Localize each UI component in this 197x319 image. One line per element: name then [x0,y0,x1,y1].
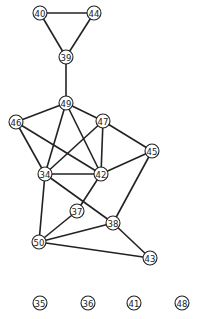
node-45: 45 [145,144,159,158]
node-39: 39 [59,50,73,64]
edge-45-42 [101,151,152,174]
node-label: 50 [34,238,45,248]
node-40: 40 [33,6,47,20]
edge-49-46 [16,103,66,122]
node-36: 36 [81,296,95,310]
node-label: 42 [96,170,107,180]
node-label: 45 [147,147,158,157]
node-label: 35 [35,299,46,309]
node-42: 42 [94,167,108,181]
node-48: 48 [175,296,189,310]
edge-50-43 [39,242,150,258]
node-35: 35 [33,296,47,310]
node-label: 43 [145,254,156,264]
node-34: 34 [38,167,52,181]
node-46: 46 [9,115,23,129]
node-38: 38 [106,216,120,230]
node-label: 41 [129,299,140,309]
edge-47-34 [45,121,103,174]
node-label: 37 [72,207,83,217]
node-label: 38 [108,219,119,229]
node-label: 39 [61,53,72,63]
node-label: 36 [83,299,94,309]
edge-47-45 [103,121,152,151]
node-label: 46 [11,118,22,128]
edge-44-39 [66,13,94,57]
node-50: 50 [32,235,46,249]
edge-47-42 [101,121,103,174]
node-43: 43 [143,251,157,265]
graph-canvas: 4044394946474534423738504335364148 [0,0,197,319]
edge-45-38 [113,151,152,223]
edge-46-34 [16,122,45,174]
node-label: 48 [177,299,188,309]
edge-40-39 [40,13,66,57]
node-44: 44 [87,6,101,20]
node-37: 37 [70,204,84,218]
node-label: 49 [61,99,72,109]
edge-34-50 [39,174,45,242]
node-41: 41 [127,296,141,310]
node-label: 34 [40,170,51,180]
node-label: 47 [98,117,109,127]
node-label: 44 [89,9,100,19]
node-47: 47 [96,114,110,128]
edge-layer [16,13,152,258]
node-49: 49 [59,96,73,110]
node-label: 40 [35,9,46,19]
